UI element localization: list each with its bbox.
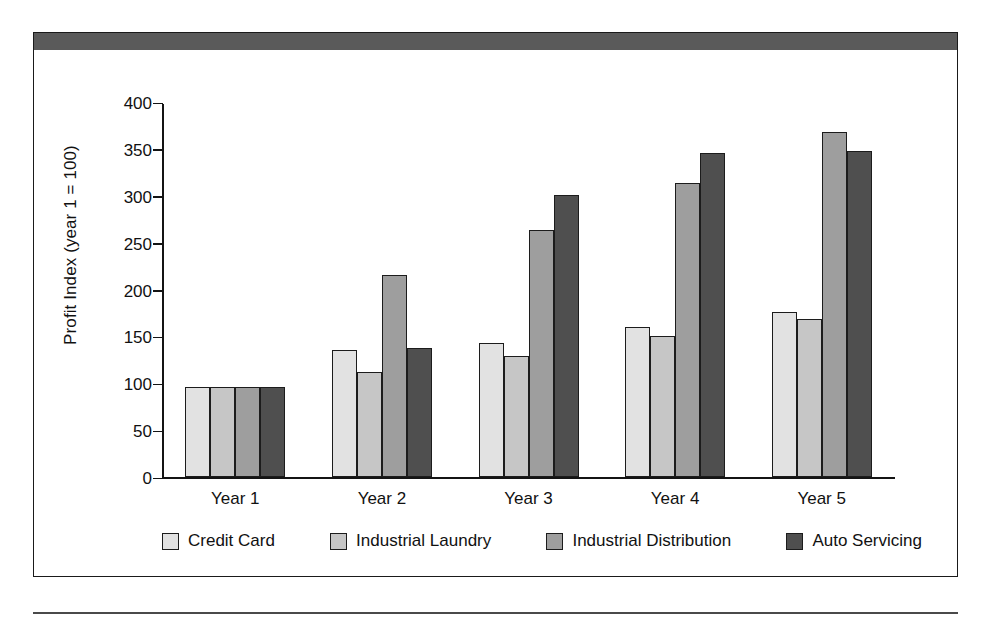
y-axis-title: Profit Index (year 1 = 100) [61,80,81,410]
legend-item[interactable]: Credit Card [162,531,275,551]
y-axis-tick-label: 0 [100,469,152,489]
x-axis-tick-label: Year 5 [797,489,846,509]
legend-label: Industrial Distribution [572,531,731,551]
plot-wrapper: Profit Index (year 1 = 100) 050100150200… [34,50,957,576]
bar[interactable] [210,387,235,477]
bar[interactable] [772,312,797,477]
bar[interactable] [332,350,357,478]
bar-group: Year 2 [332,102,432,477]
legend-swatch-icon [786,533,803,550]
legend-label: Auto Servicing [812,531,922,551]
bar[interactable] [650,336,675,478]
legend-item[interactable]: Auto Servicing [786,531,922,551]
bar[interactable] [700,153,725,477]
y-axis-tick-label: 350 [100,141,152,161]
x-axis-tick-label: Year 1 [211,489,260,509]
bar[interactable] [822,132,847,477]
bar[interactable] [260,387,285,477]
x-axis-tick-label: Year 4 [651,489,700,509]
x-axis-tick-label: Year 2 [358,489,407,509]
y-axis-tick-label: 250 [100,235,152,255]
bar[interactable] [185,387,210,477]
bar-group: Year 1 [185,102,285,477]
legend-item[interactable]: Industrial Distribution [546,531,731,551]
chart-legend: Credit CardIndustrial LaundryIndustrial … [162,531,922,551]
bar[interactable] [382,275,407,478]
y-axis-tick-label: 300 [100,188,152,208]
bar[interactable] [235,387,260,477]
legend-label: Credit Card [188,531,275,551]
bar-group: Year 4 [625,102,725,477]
bar[interactable] [357,372,382,477]
figure-header-band [34,33,957,50]
y-axis-tick-label: 200 [100,282,152,302]
legend-swatch-icon [162,533,179,550]
bar[interactable] [625,327,650,477]
y-axis-tick [153,384,163,386]
y-axis-tick-label: 400 [100,94,152,114]
bottom-divider-rule [33,612,958,614]
legend-swatch-icon [546,533,563,550]
y-axis-tick [153,149,163,151]
bar[interactable] [479,343,504,477]
bar-group: Year 3 [479,102,579,477]
bar-group: Year 5 [772,102,872,477]
y-axis-tick [153,478,163,480]
legend-item[interactable]: Industrial Laundry [330,531,491,551]
y-axis-tick [153,431,163,433]
y-axis-tick-label: 150 [100,328,152,348]
y-axis-tick [153,290,163,292]
y-axis-tick [153,196,163,198]
bar[interactable] [504,356,529,477]
bar[interactable] [797,319,822,477]
y-axis-tick-label: 100 [100,375,152,395]
plot-area: 050100150200250300350400 Year 1Year 2Yea… [162,104,895,479]
chart-figure-frame: Profit Index (year 1 = 100) 050100150200… [33,32,958,577]
bar[interactable] [407,348,432,477]
bar[interactable] [554,195,579,477]
legend-label: Industrial Laundry [356,531,491,551]
y-axis-tick [153,337,163,339]
y-axis-tick-label: 50 [100,422,152,442]
bar[interactable] [675,183,700,477]
x-axis-spine [162,477,895,479]
x-axis-tick-label: Year 3 [504,489,553,509]
legend-swatch-icon [330,533,347,550]
y-axis-tick [153,103,163,105]
bar[interactable] [529,230,554,478]
bar[interactable] [847,151,872,477]
y-axis-spine [162,104,164,479]
y-axis-tick [153,243,163,245]
